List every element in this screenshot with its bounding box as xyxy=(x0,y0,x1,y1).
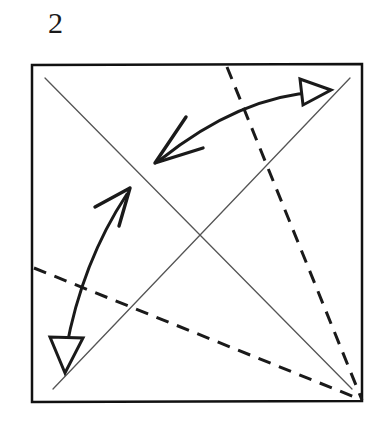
origami-step-figure: 2 xyxy=(0,0,392,428)
origami-diagram xyxy=(0,0,392,428)
